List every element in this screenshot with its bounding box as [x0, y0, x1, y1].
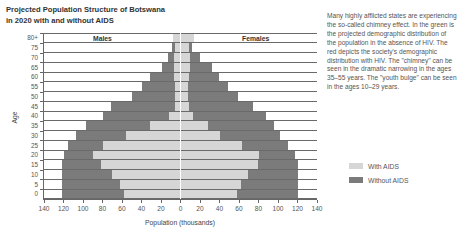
y-tick-label: 15 — [18, 161, 38, 168]
y-tick-label: 65 — [18, 64, 38, 71]
y-tick-label: 0 — [18, 190, 38, 197]
y-tick-label: 45 — [18, 103, 38, 110]
y-tick — [40, 160, 43, 161]
x-tick — [317, 200, 318, 203]
x-tick-label: 140 — [305, 205, 329, 213]
center-divider — [180, 33, 181, 199]
x-tick — [239, 200, 240, 203]
y-tick — [40, 101, 43, 102]
y-tick-label: 20 — [18, 151, 38, 158]
y-tick-label: 5 — [18, 181, 38, 188]
y-tick — [40, 43, 43, 44]
x-tick — [200, 200, 201, 203]
females-label: Females — [242, 35, 269, 42]
x-tick — [102, 200, 103, 203]
x-tick — [122, 200, 123, 203]
y-tick — [40, 82, 43, 83]
x-tick — [219, 200, 220, 203]
y-tick-label: 40 — [18, 112, 38, 119]
legend-item-with-aids: With AIDS — [349, 160, 408, 172]
y-axis-title: Age — [11, 111, 18, 123]
x-axis-title: Population (thousands) — [130, 219, 230, 226]
x-tick — [161, 200, 162, 203]
y-tick — [40, 131, 43, 132]
y-tick — [40, 189, 43, 190]
y-tick-label: 75 — [18, 44, 38, 51]
y-tick-label: 30 — [18, 132, 38, 139]
males-label: Males — [93, 35, 112, 42]
x-tick — [180, 200, 181, 203]
y-tick-label: 55 — [18, 83, 38, 90]
x-tick — [141, 200, 142, 203]
population-pyramid-plot: 80+7570656055504540353025201510501401201… — [0, 0, 457, 233]
y-tick-label: 10 — [18, 171, 38, 178]
y-tick-label: 50 — [18, 93, 38, 100]
legend-label: Without AIDS — [368, 177, 408, 184]
y-tick-label: 70 — [18, 54, 38, 61]
x-tick — [278, 200, 279, 203]
with-aids-swatch-icon — [349, 163, 363, 169]
y-tick-label: 80+ — [18, 34, 38, 41]
y-tick — [40, 170, 43, 171]
y-tick-label: 25 — [18, 142, 38, 149]
y-tick-label: 60 — [18, 73, 38, 80]
legend-label: With AIDS — [368, 163, 399, 170]
x-tick — [83, 200, 84, 203]
legend: With AIDS Without AIDS — [349, 160, 408, 188]
legend-item-without-aids: Without AIDS — [349, 174, 408, 186]
y-tick — [40, 72, 43, 73]
without-aids-swatch-icon — [349, 177, 363, 183]
y-tick — [40, 53, 43, 54]
x-tick — [258, 200, 259, 203]
y-tick — [40, 33, 43, 34]
y-tick — [40, 179, 43, 180]
y-axis-line — [43, 33, 44, 199]
y-tick — [40, 150, 43, 151]
x-tick — [297, 200, 298, 203]
y-tick — [40, 62, 43, 63]
y-tick — [40, 111, 43, 112]
x-tick — [44, 200, 45, 203]
x-tick — [63, 200, 64, 203]
y-tick-label: 35 — [18, 122, 38, 129]
y-tick — [40, 140, 43, 141]
y-tick — [40, 121, 43, 122]
y-tick — [40, 92, 43, 93]
